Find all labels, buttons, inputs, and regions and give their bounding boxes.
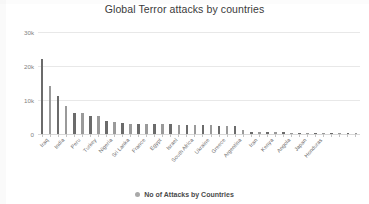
bar-slot[interactable] [167,32,175,134]
bar-slot[interactable] [215,32,223,134]
bar[interactable] [137,124,140,134]
bar-slot[interactable] [183,32,191,134]
bar[interactable] [113,122,116,134]
bar-slot[interactable] [344,32,352,134]
y-axis-tick-label: 0 [31,131,34,138]
plot-area [38,32,360,134]
bar-slot[interactable] [320,32,328,134]
bar[interactable] [89,116,92,134]
bar-slot[interactable] [231,32,239,134]
bar-slot[interactable] [127,32,135,134]
bar-slot[interactable] [38,32,46,134]
bar[interactable] [41,59,44,134]
chart-title: Global Terror attacks by countries [0,3,369,15]
bar[interactable] [186,125,189,134]
bar[interactable] [73,113,76,134]
bar[interactable] [57,96,60,134]
y-axis-tick-label: 30k [24,29,34,36]
x-axis-tick-label: Peru [69,137,81,150]
x-axis-tick-label: Kenya [260,137,275,153]
bar-slot[interactable] [279,32,287,134]
bar-slot[interactable] [239,32,247,134]
bar-slot[interactable] [46,32,54,134]
bar[interactable] [178,125,181,134]
bar[interactable] [210,125,213,134]
bar-slot[interactable] [312,32,320,134]
bar[interactable] [129,124,132,134]
bar[interactable] [161,124,164,134]
bar[interactable] [218,126,221,135]
bar-slot[interactable] [151,32,159,134]
x-axis-tick-label: India [53,137,65,150]
x-axis-tick-label: Israel [165,137,178,151]
bar[interactable] [65,106,68,134]
bar-slot[interactable] [159,32,167,134]
bar[interactable] [202,125,205,134]
bar-slot[interactable] [207,32,215,134]
bar-slot[interactable] [86,32,94,134]
bar-slot[interactable] [143,32,151,134]
bar[interactable] [121,123,124,134]
bar[interactable] [97,116,100,134]
bar-slot[interactable] [352,32,360,134]
circle-marker-icon [135,192,140,197]
bar-slot[interactable] [271,32,279,134]
legend-item-label: No of Attacks by Countries [144,191,234,198]
bar-slot[interactable] [110,32,118,134]
x-axis-tick-label: Japan [293,137,307,152]
bar-slot[interactable] [70,32,78,134]
y-axis-tick-labels: 010k20k30k [0,32,34,134]
bar-slot[interactable] [102,32,110,134]
bar-slot[interactable] [94,32,102,134]
bar-slot[interactable] [304,32,312,134]
chart-legend: No of Attacks by Countries [0,191,369,198]
bar-slot[interactable] [199,32,207,134]
bar[interactable] [49,86,52,134]
bar[interactable] [194,125,197,134]
x-axis-tick-labels: IraqIndiaPeruTurkeyNigeriaSri LankaFranc… [38,137,360,179]
y-axis-tick-label: 20k [24,63,34,70]
x-axis-tick-label: Turkey [82,137,98,153]
bar[interactable] [145,124,148,134]
bar[interactable] [153,124,156,134]
x-axis-tick-label: Ukraine [193,137,210,155]
bar[interactable] [226,126,229,134]
y-axis-tick-label: 10k [24,97,34,104]
bar-slot[interactable] [255,32,263,134]
x-axis-tick-label: Iran [248,137,259,148]
bar-slot[interactable] [54,32,62,134]
bar-series [38,32,360,134]
bar[interactable] [105,121,108,134]
bar-slot[interactable] [135,32,143,134]
bar[interactable] [234,126,237,134]
bar-slot[interactable] [296,32,304,134]
bar[interactable] [81,113,84,134]
x-axis-tick-label: Iraq [39,137,50,148]
bar-slot[interactable] [62,32,70,134]
bar-slot[interactable] [263,32,271,134]
bar-slot[interactable] [328,32,336,134]
x-axis-tick-label: Angola [275,137,291,154]
bar-slot[interactable] [336,32,344,134]
bar[interactable] [169,124,172,134]
bar-slot[interactable] [287,32,295,134]
bar-slot[interactable] [118,32,126,134]
bar-slot[interactable] [247,32,255,134]
bar-chart: Global Terror attacks by countries 010k2… [0,0,369,204]
bar-slot[interactable] [223,32,231,134]
bar-slot[interactable] [175,32,183,134]
bar-slot[interactable] [78,32,86,134]
x-axis-tick-label: France [130,137,146,154]
x-axis-tick-label: Egypt [148,137,162,151]
bar-slot[interactable] [191,32,199,134]
